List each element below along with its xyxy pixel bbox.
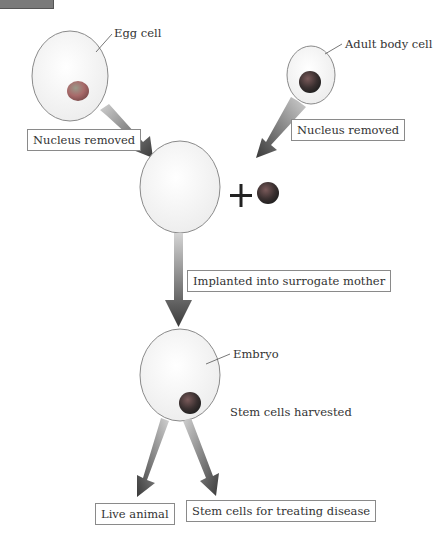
nucleus-removed-right-box: Nucleus removed bbox=[291, 119, 405, 141]
egg-nucleus bbox=[67, 81, 89, 101]
adult-body-cell-label: Adult body cell bbox=[345, 37, 432, 51]
arrow-embryo-to-live-animal bbox=[137, 418, 169, 497]
embryo-nucleus bbox=[179, 392, 201, 414]
adult-body-cell bbox=[287, 44, 342, 104]
stem-cells-disease-box: Stem cells for treating disease bbox=[186, 500, 376, 522]
stem-cells-harvested-label: Stem cells harvested bbox=[230, 405, 352, 419]
implanted-box: Implanted into surrogate mother bbox=[187, 270, 391, 292]
embryo-label: Embryo bbox=[233, 347, 279, 361]
adult-nucleus bbox=[299, 71, 321, 93]
enucleated-egg-cell bbox=[140, 141, 220, 233]
live-animal-box: Live animal bbox=[95, 503, 175, 525]
donor-nucleus bbox=[257, 182, 279, 204]
egg-cell-label: Egg cell bbox=[114, 26, 161, 40]
plus-icon bbox=[230, 184, 252, 207]
arrow-embryo-to-stem-cells bbox=[183, 418, 219, 496]
egg-cell bbox=[32, 31, 112, 121]
nucleus-removed-left-box: Nucleus removed bbox=[27, 129, 141, 151]
embryo-cell bbox=[140, 329, 230, 421]
